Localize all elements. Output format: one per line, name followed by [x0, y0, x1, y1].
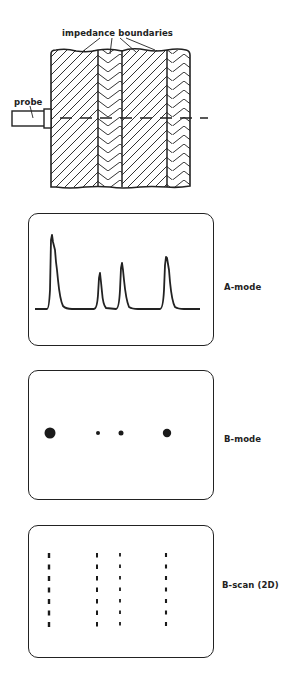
- b-scan-label: B-scan (2D): [222, 580, 279, 590]
- b-scan-columns: [0, 0, 292, 679]
